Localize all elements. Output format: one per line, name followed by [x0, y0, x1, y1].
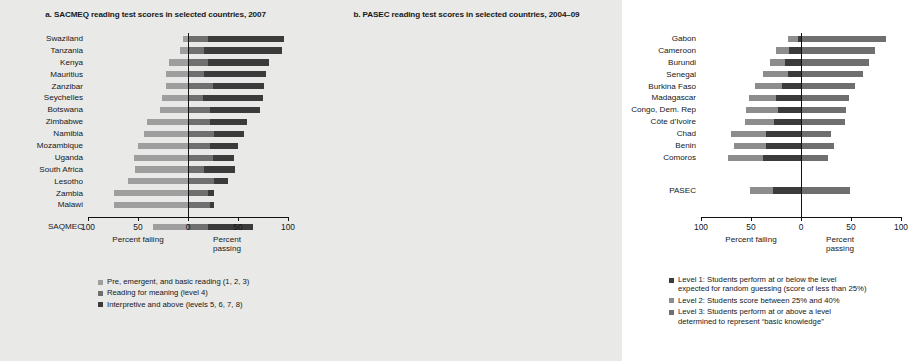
panel-sacmeq: a. SACMEQ reading test scores in selecte…	[0, 0, 311, 361]
bar-segment	[776, 47, 789, 53]
bar-segment	[801, 155, 828, 161]
x-axis-tick	[901, 217, 902, 221]
bar-segment	[203, 95, 263, 101]
x-axis-tick-label: 50	[846, 222, 855, 232]
bar-segment	[169, 59, 188, 65]
bar-segment	[188, 178, 214, 184]
legend-label-line: Interpretive and above (levels 5, 6, 7, …	[107, 300, 308, 309]
bar-segment	[728, 155, 763, 161]
stacked-bar[interactable]	[147, 119, 247, 125]
legend-swatch-icon	[669, 278, 674, 283]
bar-segment	[734, 143, 766, 149]
bar-segment	[160, 107, 188, 113]
panel-b-plot: GabonCameroonBurundiSenegalBurkina FasoM…	[701, 33, 901, 217]
legend-item[interactable]: Level 2: Students score between 25% and …	[669, 296, 913, 305]
x-axis-tick-label: 50	[233, 222, 242, 232]
bar-segment	[746, 107, 778, 113]
legend-item[interactable]: Reading for meaning (level 4)	[98, 288, 308, 297]
x-axis-tick	[138, 217, 139, 221]
x-axis-tick-label: 0	[799, 222, 804, 232]
stacked-bar[interactable]	[728, 155, 828, 161]
bar-segment	[188, 143, 210, 149]
legend-label: Level 1: Students perform at or below th…	[678, 275, 913, 294]
stacked-bar[interactable]	[169, 59, 269, 65]
zero-line	[188, 33, 189, 217]
stacked-bar[interactable]	[114, 202, 214, 208]
legend-label: Pre, emergent, and basic reading (1, 2, …	[107, 277, 308, 286]
x-axis-tick	[701, 217, 702, 221]
stacked-bar[interactable]	[183, 36, 284, 42]
bar-segment	[135, 166, 188, 172]
x-axis-tick	[851, 217, 852, 221]
stacked-bar[interactable]	[746, 107, 846, 113]
stacked-bar[interactable]	[144, 131, 244, 137]
stacked-bar[interactable]	[749, 95, 849, 101]
panel-a-title: a. SACMEQ reading test scores in selecte…	[0, 10, 311, 19]
category-label: Zimbabwe	[13, 116, 83, 128]
category-label: Mozambique	[13, 140, 83, 152]
category-label: Burundi	[614, 57, 696, 69]
category-label: Senegal	[614, 69, 696, 81]
legend-item[interactable]: Level 3: Students perform at or above a …	[669, 307, 913, 326]
bar-segment	[208, 224, 253, 230]
bar-segment	[801, 143, 834, 149]
bar-segment	[731, 131, 766, 137]
legend-item[interactable]: Pre, emergent, and basic reading (1, 2, …	[98, 277, 308, 286]
stacked-bar[interactable]	[128, 178, 228, 184]
stacked-bar[interactable]	[731, 131, 831, 137]
stacked-bar[interactable]	[755, 83, 855, 89]
stacked-bar[interactable]	[180, 47, 282, 53]
stacked-bar[interactable]	[734, 143, 834, 149]
stacked-bar[interactable]	[134, 155, 234, 161]
x-axis-tick	[188, 217, 189, 221]
category-label: Lesotho	[13, 176, 83, 188]
category-label: Botswana	[13, 104, 83, 116]
bar-segment	[188, 224, 208, 230]
x-axis-tick-label: 100	[694, 222, 708, 232]
category-label: Madagascar	[614, 92, 696, 104]
bar-segment	[770, 59, 785, 65]
stacked-bar[interactable]	[770, 59, 869, 65]
bar-segment	[778, 107, 801, 113]
bar-segment	[114, 190, 188, 196]
category-label: Uganda	[13, 152, 83, 164]
bar-segment	[188, 107, 210, 113]
stacked-bar[interactable]	[750, 187, 850, 193]
bar-segment	[210, 119, 247, 125]
stacked-bar[interactable]	[776, 47, 875, 53]
bar-segment	[162, 95, 188, 101]
bar-segment	[801, 71, 863, 77]
stacked-bar[interactable]	[166, 83, 264, 89]
x-axis-tick	[801, 217, 802, 221]
bar-segment	[188, 155, 213, 161]
stacked-bar[interactable]	[135, 166, 235, 172]
bar-segment	[214, 178, 228, 184]
bar-segment	[138, 143, 188, 149]
stacked-bar[interactable]	[745, 119, 845, 125]
stacked-bar[interactable]	[166, 71, 266, 77]
category-label: Cameroon	[614, 45, 696, 57]
stacked-bar[interactable]	[160, 107, 260, 113]
legend-item[interactable]: Level 1: Students perform at or below th…	[669, 275, 913, 294]
stacked-bar[interactable]	[114, 190, 214, 196]
bar-segment	[785, 59, 801, 65]
stacked-bar[interactable]	[162, 95, 263, 101]
bar-segment	[749, 95, 776, 101]
bar-segment	[801, 131, 831, 137]
bar-segment	[210, 107, 260, 113]
stacked-bar[interactable]	[788, 36, 886, 42]
bar-segment	[188, 131, 214, 137]
x-axis-tick-label: 100	[281, 222, 295, 232]
bar-segment	[204, 47, 282, 53]
stacked-bar[interactable]	[763, 71, 863, 77]
bar-segment	[188, 36, 208, 42]
bar-segment	[134, 155, 188, 161]
legend-item[interactable]: Interpretive and above (levels 5, 6, 7, …	[98, 300, 308, 309]
bar-segment	[208, 59, 269, 65]
x-axis-tick-label: 0	[186, 222, 191, 232]
bar-segment	[766, 143, 801, 149]
bar-segment	[213, 155, 234, 161]
bar-segment	[188, 202, 210, 208]
category-label: PASEC	[614, 185, 696, 197]
x-axis-tick-label: 100	[894, 222, 908, 232]
